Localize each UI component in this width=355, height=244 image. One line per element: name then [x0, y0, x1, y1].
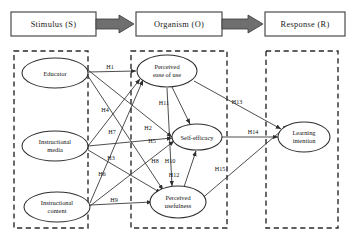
node-learning-intention: Learning intention [278, 122, 330, 152]
node-label-instructional-media-line2: media [47, 146, 63, 153]
path-H11 [172, 87, 190, 124]
node-label-educator: Educator [43, 70, 67, 77]
node-label-instructional-content-line1: Instructional [41, 199, 74, 206]
path-label-H11: H11 [159, 100, 169, 106]
node-label-perceived-usefulness-line1: Perceived [165, 194, 191, 201]
node-instructional-media: Instructional media [22, 131, 88, 161]
node-label-instructional-content-line2: content [48, 207, 67, 214]
path-label-H7: H7 [108, 129, 115, 135]
stage-label-stimulus: Stimulus (S) [31, 20, 77, 29]
path-label-H3: H3 [107, 155, 114, 161]
diagram-canvas: Stimulus (S) Organism (O) Response (R) [0, 0, 355, 244]
node-label-perceived-usefulness-line2: usefulness [165, 202, 192, 209]
node-label-instructional-media-line1: Instructional [39, 138, 72, 145]
node-perceived-usefulness: Perceived usefulness [150, 186, 206, 218]
path-label-H5: H5 [148, 138, 155, 144]
path-H13 [194, 81, 281, 129]
node-label-learning-intention-line1: Learning [292, 129, 316, 136]
stage-arrow-organism-to-response [222, 15, 263, 33]
node-educator: Educator [22, 58, 88, 88]
node-perceived-ease-of-use: Perceived ease of use [137, 55, 197, 87]
research-model-diagram: Stimulus (S) Organism (O) Response (R) [0, 0, 355, 244]
node-label-perceived-ease-of-use-line1: Perceived [154, 63, 180, 70]
stage-label-response: Response (R) [281, 20, 330, 29]
path-H4 [88, 79, 140, 146]
path-label-H6: H6 [98, 171, 105, 177]
node-instructional-content: Instructional content [24, 192, 90, 222]
path-label-H9: H9 [110, 197, 117, 203]
node-self-efficacy: Self-efficacy [172, 124, 222, 150]
stage-row: Stimulus (S) Organism (O) Response (R) [11, 12, 345, 36]
node-label-learning-intention-line2: intention [293, 137, 317, 144]
path-H1 [88, 71, 136, 72]
node-layer: Educator Instructional media Instruction… [22, 55, 330, 222]
path-label-H8: H8 [151, 158, 158, 164]
path-label-H15: H15 [215, 166, 226, 172]
path-label-H12: H12 [169, 172, 180, 178]
path-label-H1: H1 [106, 64, 113, 70]
node-label-perceived-ease-of-use-line2: ease of use [153, 71, 181, 78]
path-label-H10: H10 [165, 158, 176, 164]
path-label-H2: H2 [144, 125, 151, 131]
path-H12 [184, 151, 196, 187]
node-label-self-efficacy: Self-efficacy [181, 134, 215, 141]
path-H9 [90, 202, 152, 205]
path-label-H14: H14 [248, 129, 259, 135]
path-label-H13: H13 [232, 99, 243, 105]
stage-arrow-stimulus-to-organism [96, 15, 134, 33]
stage-label-organism: Organism (O) [154, 20, 204, 29]
path-label-H4: H4 [101, 107, 108, 113]
